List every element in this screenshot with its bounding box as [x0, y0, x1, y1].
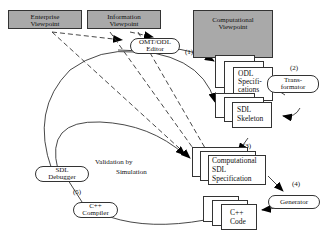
generator: Generator	[268, 195, 320, 209]
validation-label-1: Validation by	[95, 158, 133, 166]
step-5-label: (5)	[73, 188, 81, 196]
enterprise-viewpoint: Enterprise Viewpoint	[8, 10, 82, 29]
comp-spec-label-1: Computational	[212, 157, 257, 165]
editor-label-2: Editor	[131, 46, 179, 53]
computational-sdl-specification: Computational SDL Specification	[208, 155, 266, 185]
debugger-label-2: Debugger	[36, 174, 88, 181]
transformator: Trans- formator	[267, 75, 319, 93]
computational-label-2: Viewpoint	[194, 24, 272, 31]
step-1-label: (1)	[185, 48, 193, 56]
computational-viewpoint: Computational Viewpoint	[193, 10, 273, 58]
compiler-label-2: Compiler	[74, 210, 117, 217]
cpp-compiler: C++ Compiler	[73, 202, 118, 218]
information-viewpoint: Information Viewpoint	[87, 10, 161, 29]
comp-spec-label-2: SDL	[212, 166, 226, 174]
comp-spec-label-3: Specification	[212, 175, 252, 183]
skeleton-label-2: Skeleton	[237, 115, 263, 123]
cpp-code: C++ Code	[221, 204, 257, 230]
information-label-2: Viewpoint	[88, 21, 160, 28]
skeleton-label-1: SDL	[237, 106, 251, 114]
validation-label-2: Simulation	[116, 168, 147, 176]
enterprise-label-2: Viewpoint	[9, 21, 81, 28]
step-2-label: (2)	[290, 64, 298, 72]
generator-label: Generator	[269, 199, 319, 206]
omt-odl-editor: OMT/ODL Editor	[130, 38, 180, 54]
sdl-debugger: SDL Debugger	[35, 166, 89, 182]
sdl-skeleton: SDL Skeleton	[232, 102, 272, 128]
step-4-label: (4)	[292, 180, 300, 188]
transformator-label-2: formator	[268, 84, 318, 91]
cpp-code-label-1: C++	[230, 209, 243, 217]
cpp-code-label-2: Code	[230, 218, 246, 226]
